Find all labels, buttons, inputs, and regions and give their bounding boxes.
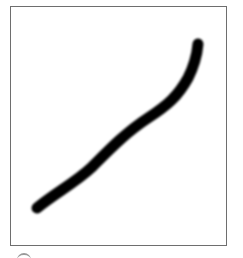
brush-stroke-layer — [0, 0, 243, 258]
brush-stroke — [37, 44, 198, 208]
drawing-stage — [0, 0, 243, 258]
